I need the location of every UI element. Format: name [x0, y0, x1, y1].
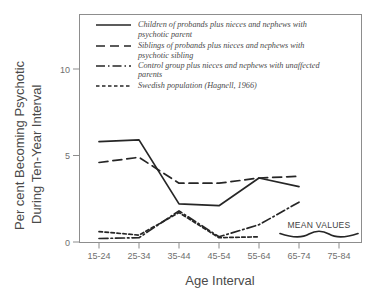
mean-values-label: MEAN VALUES [287, 220, 350, 230]
x-tick-label-45-54: 45-54 [207, 251, 230, 261]
legend-label-siblings-of-probands-line1: Siblings of probands plus nieces and nep… [138, 41, 304, 50]
x-tick-label-15-24: 15-24 [87, 251, 110, 261]
y-tick-label-5: 5 [65, 151, 70, 161]
x-axis-title: Age Interval [185, 273, 254, 288]
mean-values-annotation: MEAN VALUES [280, 220, 358, 237]
x-tick-label-55-64: 55-64 [247, 251, 270, 261]
chart-figure: 0 5 10 15-24 25-34 35-44 45-54 55-64 65-… [0, 0, 380, 298]
series-line-children-of-probands [99, 140, 299, 206]
y-axis-ticks [73, 69, 80, 242]
legend-label-control-group-line2: parents [137, 70, 162, 79]
series-line-control-group [99, 202, 299, 238]
x-tick-label-25-34: 25-34 [127, 251, 150, 261]
y-tick-label-0: 0 [65, 238, 70, 248]
chart-legend: Children of probands plus nieces and nep… [96, 20, 320, 90]
legend-label-siblings-of-probands-line2: psychotic sibling [137, 51, 193, 60]
legend-label-children-of-probands-line2: psychotic parent [137, 30, 193, 39]
y-tick-label-10: 10 [60, 65, 70, 75]
series-line-swedish-population [99, 213, 259, 238]
legend-label-children-of-probands-line1: Children of probands plus nieces and nep… [138, 20, 307, 29]
x-tick-label-65-74: 65-74 [287, 251, 310, 261]
x-tick-label-75-84: 75-84 [327, 251, 350, 261]
legend-label-control-group-line1: Control group plus nieces and nephews wi… [138, 61, 320, 70]
mean-values-brace [280, 231, 358, 237]
legend-label-swedish-population: Swedish population (Hagnell, 1966) [138, 81, 257, 90]
x-tick-label-35-44: 35-44 [167, 251, 190, 261]
y-axis-title-line2: During Ten-Year Interval [29, 84, 44, 224]
y-axis-title-line1: Per cent Becoming Psychotic [12, 60, 27, 230]
